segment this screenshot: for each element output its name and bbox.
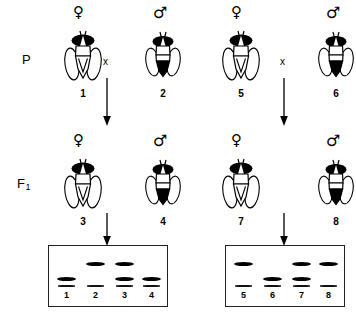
gel-right-lane8-band-upper [319,262,338,266]
gel-left-lane1-band-origin [58,285,75,287]
fly-icon-5 [219,25,263,85]
fly-number-1: 1 [73,89,93,99]
fly-icon-8 [316,157,356,211]
gel-left-lanes: 1 2 3 4 [49,246,167,306]
generation-label-f1: F1 [17,177,31,192]
fly-number-2: 2 [153,89,173,99]
generation-label-p-text: P [22,52,31,67]
sex-symbol-male-8: ♂ [326,133,340,149]
fly-icon-6 [316,29,356,83]
gel-right-lane6-band-origin [264,285,281,287]
generation-label-p: P [22,53,31,66]
fly-number-7: 7 [231,217,251,227]
sex-symbol-female-3: ♀ [73,133,84,148]
gel-right: 5 6 7 8 [225,245,345,307]
gel-right-lane8-band-origin [320,285,337,287]
arrow-p-to-f1-right [276,78,292,128]
arrow-p-to-f1-left [99,78,115,128]
gel-right-lane7-band-origin [293,285,310,287]
fly-icon-2 [143,29,183,83]
gel-right-lane5-band-origin [235,285,252,287]
generation-label-f1-subscript: 1 [25,182,31,192]
gel-right-lane5-band-upper [234,262,253,266]
gel-left-lane1-band-lower [57,277,76,281]
sex-symbol-female-1: ♀ [73,5,84,20]
gel-right-lane-label-6: 6 [265,291,281,300]
sex-symbol-male-2: ♂ [153,5,167,21]
gel-left-lane3-band-upper [115,262,134,266]
fly-icon-7 [219,153,263,213]
gel-left-lane2-band-upper [86,262,105,266]
gel-right-lane-label-8: 8 [321,291,337,300]
gel-right-lane-label-5: 5 [236,291,252,300]
gel-left-lane-label-1: 1 [59,291,75,300]
gel-left-lane4-band-origin [143,285,160,287]
sex-symbol-female-5: ♀ [231,5,242,20]
fly-number-5: 5 [231,89,251,99]
arrow-f1-to-gel-right [276,213,292,247]
gel-left-lane2-band-origin [87,285,104,287]
fly-icon-4 [143,157,183,211]
fly-number-8: 8 [326,217,346,227]
gel-left-lane3-band-lower [115,277,134,281]
sex-symbol-female-7: ♀ [231,133,242,148]
fly-number-6: 6 [326,89,346,99]
gel-left-lane-label-4: 4 [144,291,160,300]
sex-symbol-male-6: ♂ [326,5,340,21]
sex-symbol-male-4: ♂ [153,133,167,149]
arrow-f1-to-gel-left [99,213,115,247]
gel-right-lane7-band-lower [292,277,311,281]
gel-right-lane6-band-lower [263,277,282,281]
gel-right-lane-label-7: 7 [294,291,310,300]
gel-left-lane-label-3: 3 [117,291,133,300]
fly-number-3: 3 [73,217,93,227]
gel-left: 1 2 3 4 [48,245,168,307]
fly-icon-3 [61,153,105,213]
gel-left-lane4-band-lower [142,277,161,281]
gel-right-lane7-band-upper [292,262,311,266]
fly-icon-1 [61,25,105,85]
gel-right-lanes: 5 6 7 8 [226,246,344,306]
figure-canvas: P F1 x x ♀ [0,0,356,317]
gel-left-lane-label-2: 2 [88,291,104,300]
gel-left-lane3-band-origin [116,285,133,287]
fly-number-4: 4 [153,217,173,227]
cross-symbol-right: x [280,57,285,67]
